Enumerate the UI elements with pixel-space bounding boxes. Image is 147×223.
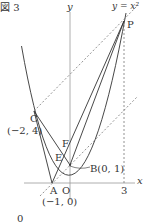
figure-title: 図 3 xyxy=(0,3,20,13)
point-p-label: P xyxy=(127,20,134,30)
segment-ap xyxy=(52,21,124,183)
point-f-label: F xyxy=(62,139,69,149)
bottom-fragment: 0 xyxy=(17,214,23,223)
curve-label: y = x² xyxy=(112,2,139,11)
point-b-label: B(0, 1) xyxy=(90,164,124,174)
point-a-coords: (−1, 0) xyxy=(42,197,77,207)
y-axis-label: y xyxy=(67,2,73,12)
dashed-through-a xyxy=(40,96,138,196)
point-b-dot xyxy=(69,164,71,166)
leader-b xyxy=(70,166,90,168)
point-c-label: C xyxy=(30,114,38,124)
segment-bp xyxy=(70,21,124,165)
parabola-curve xyxy=(22,13,127,175)
tick-x3-label: 3 xyxy=(121,186,127,196)
x-axis-label: x xyxy=(137,176,143,186)
origin-label: O xyxy=(62,186,70,196)
point-a-label: A xyxy=(50,186,57,196)
point-c-coords: (−2, 4) xyxy=(7,126,42,136)
point-e-label: E xyxy=(55,153,62,163)
dashed-through-c xyxy=(34,5,138,111)
